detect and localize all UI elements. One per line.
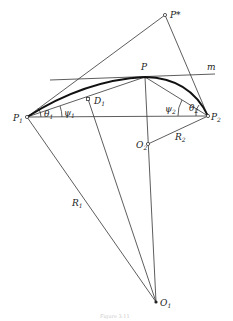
line-pstar-p2: [165, 15, 208, 116]
point-p-star: [163, 13, 166, 16]
label-psi2: ψ2: [165, 104, 176, 115]
label-p2: P2: [210, 112, 221, 123]
label-d1: D1: [93, 96, 105, 107]
point-d1: [87, 98, 90, 101]
line-d1-o1: [88, 99, 156, 302]
label-o2: O2: [136, 140, 147, 151]
label-r2: R2: [174, 132, 186, 143]
angle-arc-psi1: [60, 106, 62, 117]
label-m: m: [207, 62, 216, 72]
point-p1: [25, 115, 28, 118]
label-o1: O1: [160, 298, 171, 309]
point-p2: [206, 114, 209, 117]
label-theta2: θ2: [189, 103, 198, 114]
label-p-star: P*: [169, 10, 181, 20]
label-psi1: ψ1: [64, 108, 75, 119]
figure-caption: Figure 3.11: [100, 313, 130, 320]
label-p1: P1: [12, 113, 23, 124]
label-theta1: θ1: [44, 109, 53, 120]
label-p: P: [140, 62, 148, 72]
point-o1: [154, 300, 157, 303]
line-p-o1: [145, 77, 156, 302]
geometry-diagram: P* P m P1 P2 D1 θ1 ψ1 ψ2 θ2 O2 R2 R1 O1 …: [0, 0, 233, 321]
chord-p1-p2: [27, 116, 208, 117]
label-r1: R1: [71, 198, 83, 209]
angle-arc-psi2: [178, 100, 182, 116]
